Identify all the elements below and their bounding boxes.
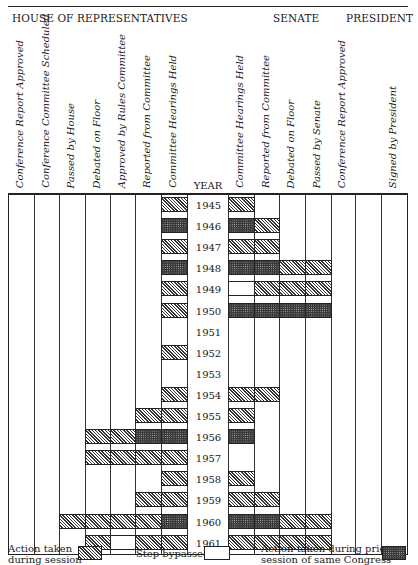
house-status-action-during-session <box>135 492 162 507</box>
year-row-1953: 1953 <box>9 365 407 384</box>
senate-col-reported-from-committee: Reported from Committee <box>260 55 271 188</box>
year-label: 1952 <box>188 348 229 359</box>
year-label: 1948 <box>188 263 229 274</box>
house-status-action-during-session <box>161 197 188 212</box>
legend-prior-label: Action taken during prior session of sam… <box>261 543 391 565</box>
house-col-reported-from-committee: Reported from Committee <box>141 55 152 188</box>
senate-status-action-during-session <box>279 281 306 296</box>
house-status-action-prior-session <box>161 429 188 444</box>
house-status-action-during-session <box>161 471 188 486</box>
top-rule <box>8 6 408 7</box>
senate-status-action-during-session <box>279 514 306 529</box>
senate-status-action-during-session <box>254 281 280 296</box>
house-status-action-during-session <box>161 450 188 465</box>
house-status-action-during-session <box>161 281 188 296</box>
house-status-action-during-session <box>161 387 188 402</box>
senate-col-passed-by-senate: Passed by Senate <box>311 100 322 188</box>
legend: Action taken during session Step bypasse… <box>0 540 418 565</box>
senate-status-action-during-session <box>228 492 255 507</box>
year-row-1955: 1955 <box>9 407 407 426</box>
senate-status-action-during-session <box>254 239 280 254</box>
senate-status-action-prior-session <box>228 514 255 529</box>
year-label: 1958 <box>188 474 229 485</box>
house-col-debated-on-floor: Debated on Floor <box>91 100 102 188</box>
senate-status-action-during-session <box>228 408 255 423</box>
house-status-action-during-session <box>110 514 136 529</box>
year-label: 1954 <box>188 390 229 401</box>
legend-prior-swatch <box>382 546 406 560</box>
house-status-action-during-session <box>110 450 136 465</box>
year-row-1960: 1960 <box>9 513 407 532</box>
year-label: 1950 <box>188 306 229 317</box>
year-label: 1947 <box>188 242 229 253</box>
house-status-action-during-session <box>59 514 86 529</box>
year-label: 1945 <box>188 200 229 211</box>
senate-col-committee-hearings-held: Committee Hearings Held <box>234 55 245 188</box>
year-label: 1953 <box>188 369 229 380</box>
year-label: 1959 <box>188 495 229 506</box>
year-row-1950: 1950 <box>9 302 407 321</box>
legislative-history-grid: 1945194619471948194919501951195219531954… <box>8 193 408 555</box>
president-section-title: PRESIDENT <box>346 12 413 24</box>
year-row-1956: 1956 <box>9 428 407 447</box>
house-status-action-during-session <box>161 492 188 507</box>
senate-status-action-during-session <box>305 281 332 296</box>
senate-status-action-prior-session <box>228 429 255 444</box>
senate-status-step-bypassed <box>228 281 255 296</box>
house-status-action-prior-session <box>161 218 188 233</box>
senate-status-action-during-session <box>254 387 280 402</box>
senate-status-action-prior-session <box>279 303 306 318</box>
house-section-title: HOUSE OF REPRESENTATIVES <box>12 12 188 24</box>
year-row-1945: 1945 <box>9 196 407 215</box>
house-status-action-prior-session <box>161 260 188 275</box>
year-label: 1957 <box>188 453 229 464</box>
legend-session-swatch <box>78 546 102 560</box>
legend-session-label: Action taken during session <box>8 543 82 565</box>
year-row-1948: 1948 <box>9 259 407 278</box>
year-label: 1946 <box>188 221 229 232</box>
senate-status-action-during-session <box>228 197 255 212</box>
year-label: 1955 <box>188 411 229 422</box>
house-status-action-during-session <box>161 239 188 254</box>
year-row-1949: 1949 <box>9 280 407 299</box>
house-status-action-during-session <box>161 408 188 423</box>
house-status-action-prior-session <box>135 429 162 444</box>
year-row-1957: 1957 <box>9 449 407 468</box>
house-col-conference-committee-scheduled: Conference Committee Scheduled <box>40 14 51 188</box>
year-row-1947: 1947 <box>9 238 407 257</box>
senate-col-conference-report-approved: Conference Report Approved <box>336 40 347 188</box>
senate-status-action-during-session <box>228 387 255 402</box>
senate-col-debated-on-floor: Debated on Floor <box>285 100 296 188</box>
senate-section-title: SENATE <box>273 12 319 24</box>
house-col-approved-by-rules-committee: Approved by Rules Committee <box>116 34 127 188</box>
house-status-action-during-session <box>110 429 136 444</box>
year-row-1959: 1959 <box>9 491 407 510</box>
senate-status-action-prior-session <box>254 514 280 529</box>
house-status-action-during-session <box>161 345 188 360</box>
president-col-signed-by-president: Signed by President <box>387 86 398 188</box>
year-row-1952: 1952 <box>9 344 407 363</box>
year-label: 1951 <box>188 327 229 338</box>
house-col-conference-report-approved: Conference Report Approved <box>14 40 25 188</box>
house-status-action-during-session <box>85 450 111 465</box>
house-status-action-prior-session <box>161 514 188 529</box>
column-headers: Conference Report ApprovedConference Com… <box>0 26 418 192</box>
year-label: 1960 <box>188 517 229 528</box>
house-status-action-during-session <box>85 429 111 444</box>
senate-status-action-prior-session <box>228 218 255 233</box>
year-column-header: YEAR <box>190 180 226 191</box>
senate-status-action-during-session <box>254 492 280 507</box>
senate-status-action-prior-session <box>254 260 280 275</box>
year-label: 1949 <box>188 284 229 295</box>
house-status-action-during-session <box>161 303 188 318</box>
legend-bypassed-swatch <box>204 546 230 560</box>
senate-status-action-prior-session <box>254 303 280 318</box>
senate-status-action-during-session <box>305 260 332 275</box>
house-status-action-during-session <box>135 408 162 423</box>
senate-status-action-during-session <box>228 471 255 486</box>
senate-status-action-during-session <box>279 260 306 275</box>
house-col-committee-hearings-held: Committee Hearings Held <box>167 55 178 188</box>
year-row-1951: 1951 <box>9 323 407 342</box>
senate-status-action-prior-session <box>228 260 255 275</box>
house-status-action-during-session <box>135 514 162 529</box>
